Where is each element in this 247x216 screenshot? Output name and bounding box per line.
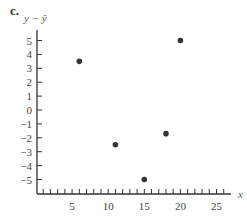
- data-point: [142, 177, 148, 183]
- data-point: [77, 59, 83, 65]
- y-tick-label: 3: [27, 62, 33, 74]
- data-points: [77, 38, 184, 183]
- y-tick-label: 0: [27, 104, 33, 116]
- y-tick-label: −3: [20, 146, 32, 158]
- x-tick-label: 10: [103, 200, 115, 212]
- data-point: [163, 131, 169, 137]
- residual-scatter-plot: 543210−1−2−3−4−5510152025xy − ŷ: [0, 0, 247, 216]
- y-tick-label: 2: [27, 76, 33, 88]
- x-tick-label: 25: [211, 200, 223, 212]
- y-tick-label: 1: [27, 90, 33, 102]
- y-tick-label: −2: [20, 132, 32, 144]
- data-point: [113, 142, 119, 148]
- x-tick-label: 20: [175, 200, 187, 212]
- y-tick-label: −4: [20, 160, 32, 172]
- x-tick-label: 5: [69, 200, 75, 212]
- y-tick-label: −5: [20, 174, 32, 186]
- y-tick-label: −1: [20, 118, 32, 130]
- y-tick-label: 4: [27, 48, 33, 60]
- y-axis-title: y − ŷ: [23, 12, 47, 24]
- data-point: [178, 38, 184, 44]
- x-axis-title: x: [237, 188, 243, 200]
- y-tick-label: 5: [27, 35, 33, 47]
- axes: 543210−1−2−3−4−5510152025xy − ŷ: [20, 12, 243, 212]
- x-tick-label: 15: [139, 200, 151, 212]
